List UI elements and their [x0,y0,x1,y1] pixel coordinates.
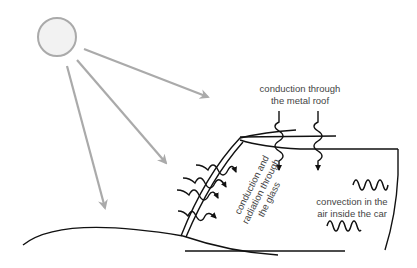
labels: conduction through the metal roof conduc… [230,83,388,230]
convection-wave-2 [327,221,361,231]
roof-label-line1: conduction through [260,83,341,94]
car-outline [23,123,398,255]
convection-wave-1 [353,180,388,190]
heat-transfer-diagram: conduction through the metal roof conduc… [0,0,417,268]
air-label-line1: convection in the [316,196,387,207]
roof-label-line2: the metal roof [271,95,329,106]
glass-wavy-arrows [177,165,236,221]
sun-rays [67,49,208,208]
sun-icon [38,18,76,56]
roof-wave-arrow-2 [314,111,322,170]
air-label-line2: air inside the car [317,208,387,219]
glass-wave-arrow-1 [196,165,236,175]
roof-wavy-arrows [275,111,322,170]
